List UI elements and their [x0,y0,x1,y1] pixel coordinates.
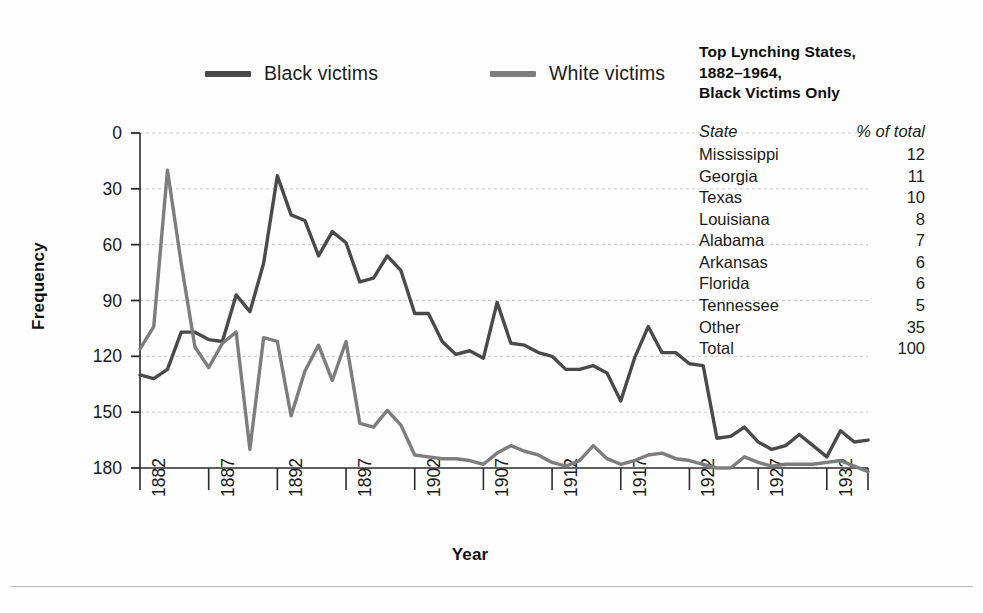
table-row: Arkansas6 [699,252,969,274]
cell-pct: 7 [811,230,969,252]
column-header-pct: % of total [811,121,969,144]
cell-state: Other [699,317,811,339]
cell-pct: 11 [811,166,969,188]
cell-state: Arkansas [699,252,811,274]
side-panel-title-line-3: Black Victims Only [699,83,969,104]
cell-pct: 12 [811,144,969,166]
cell-state: Alabama [699,230,811,252]
table-row: Tennessee5 [699,295,969,317]
top-states-table: State % of total Mississippi12Georgia11T… [699,121,969,360]
cell-state: Louisiana [699,209,811,231]
table-row: Alabama7 [699,230,969,252]
cell-pct: 35 [811,317,969,339]
cell-pct: 5 [811,295,969,317]
column-header-state: State [699,121,811,144]
side-panel-title-line-2: 1882–1964, [699,63,969,84]
footer-divider [10,586,973,587]
table-header-row: State % of total [699,121,969,144]
cell-pct: 10 [811,187,969,209]
table-row: Total100 [699,338,969,360]
cell-state: Georgia [699,166,811,188]
table-row: Other35 [699,317,969,339]
side-panel-title-line-1: Top Lynching States, [699,42,969,63]
cell-pct: 100 [811,338,969,360]
cell-state: Florida [699,273,811,295]
table-row: Louisiana8 [699,209,969,231]
cell-pct: 6 [811,252,969,274]
cell-state: Total [699,338,811,360]
table-row: Georgia11 [699,166,969,188]
cell-state: Tennessee [699,295,811,317]
cell-state: Texas [699,187,811,209]
table-row: Texas10 [699,187,969,209]
cell-state: Mississippi [699,144,811,166]
cell-pct: 8 [811,209,969,231]
table-row: Florida6 [699,273,969,295]
table-row: Mississippi12 [699,144,969,166]
lynching-frequency-figure: Black victims White victims Frequency Ye… [0,0,983,613]
cell-pct: 6 [811,273,969,295]
side-panel: Top Lynching States, 1882–1964, Black Vi… [699,42,969,360]
side-panel-title: Top Lynching States, 1882–1964, Black Vi… [699,42,969,104]
